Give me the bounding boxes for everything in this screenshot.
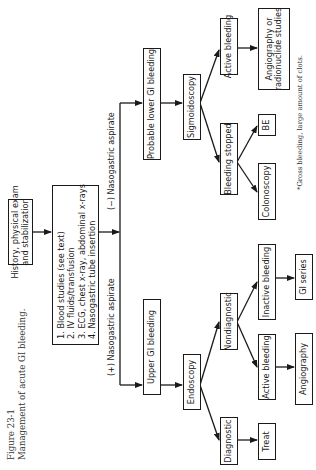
gi-series-box: GI series: [295, 254, 313, 300]
step-1: 1. Blood studies (see text): [56, 231, 66, 339]
history-line-2: and stabilization: [21, 198, 31, 266]
treat-box: Treat: [258, 423, 276, 460]
endoscopy-box: Endoscopy: [183, 354, 201, 410]
colonoscopy-box: Colonoscopy: [258, 163, 276, 220]
footnote: *Gross bleeding, large amount of clots.: [296, 55, 304, 190]
bleeding-stopped-box: Bleeding stopped: [220, 123, 238, 195]
history-physical-exam-box: History, physical exam and stabilization: [8, 199, 33, 265]
initial-steps-box: 1. Blood studies (see text) 2. IV fluids…: [52, 185, 99, 345]
figure-title: Management of acute GI bleeding.: [17, 309, 28, 460]
angiography-radionuclide-box: Angiography or radionuclide studies: [258, 8, 290, 90]
step-4: 4. Nasogastric tube insertion: [87, 221, 97, 339]
active-bleeding-upper-box: Active bleeding: [258, 334, 276, 400]
active-bleeding-lower-box: Active bleeding: [220, 18, 238, 75]
sigmoidoscopy-box: Sigmoidoscopy: [183, 74, 201, 140]
step-3: 3. ECG, chest x-ray, abdominal x-rays: [77, 184, 87, 339]
angiography-box: Angiography: [295, 333, 313, 405]
angio-radionuclide-line-2: radionuclide studies: [274, 8, 284, 91]
diagnostic-box: Diagnostic: [220, 417, 238, 465]
negative-aspirate-label: (−) Nasogastric aspirate: [107, 112, 116, 210]
be-box: BE: [258, 114, 276, 136]
inactive-bleeding-box: Inactive bleeding: [258, 244, 276, 320]
figure-caption: Figure 23-1 Management of acute GI bleed…: [6, 309, 27, 460]
upper-gi-bleeding-box: Upper GI bleeding: [143, 299, 161, 395]
positive-aspirate-label: (+) Nasogastric aspirate: [107, 278, 116, 376]
figure-number: Figure 23-1: [6, 309, 17, 460]
probable-lower-gi-bleeding-box: Probable lower GI bleeding: [143, 48, 161, 160]
nondiagnostic-box: Nondiagnostic: [220, 293, 238, 350]
step-2: 2. IV fluids/transfusion: [66, 247, 76, 339]
flowchart-canvas: History, physical exam and stabilization…: [0, 0, 316, 470]
